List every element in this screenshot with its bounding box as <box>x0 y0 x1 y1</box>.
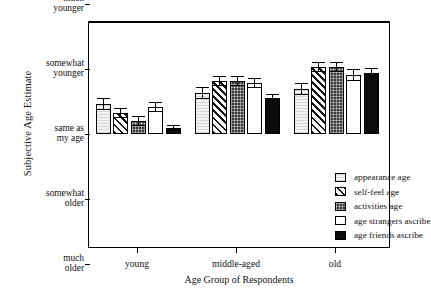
x-axis-tick-mark <box>137 248 138 253</box>
error-bar <box>364 68 379 78</box>
x-axis-title: Age Group of Respondents <box>88 274 390 285</box>
error-bar-cap-top <box>347 69 360 70</box>
legend-label: age friends ascribe <box>354 230 423 240</box>
legend-swatch <box>335 187 346 196</box>
y-axis-tick-label: same as my age <box>0 123 84 144</box>
error-bar-cap-top <box>312 62 325 63</box>
legend-swatch <box>335 216 346 225</box>
error-bar-cap-bottom <box>347 80 360 81</box>
x-axis-tick-mark <box>335 248 336 253</box>
y-axis-tick-mark <box>85 4 90 5</box>
legend-label: age strangers ascribe <box>354 216 431 226</box>
error-bar-cap-bottom <box>365 77 378 78</box>
legend-label: self-feel age <box>354 187 399 197</box>
y-axis-tick-label: much younger <box>0 0 84 13</box>
error-bar-cap-bottom <box>295 94 308 95</box>
legend-swatch <box>335 231 346 240</box>
y-axis-tick-mark <box>85 199 90 200</box>
error-bar <box>294 83 309 95</box>
error-bar-cap-top <box>295 83 308 84</box>
legend-item: appearance age <box>335 170 431 185</box>
legend: appearance ageself-feel ageactivities ag… <box>335 170 431 243</box>
error-bar <box>346 69 361 81</box>
error-bar-cap-top <box>330 62 343 63</box>
error-bar-cap-top <box>365 68 378 69</box>
y-axis-tick-label: somewhat older <box>0 188 84 209</box>
plot-area: appearance ageself-feel ageactivities ag… <box>88 21 390 248</box>
x-axis-tick-label: young <box>92 258 182 269</box>
x-axis-tick-label: middle-aged <box>191 258 281 269</box>
legend-item: age friends ascribe <box>335 228 431 243</box>
legend-label: activities age <box>354 201 402 211</box>
bar <box>364 73 379 134</box>
legend-item: self-feel age <box>335 185 431 200</box>
y-axis-tick-label: much older <box>0 253 84 274</box>
y-axis-tick-mark <box>85 264 90 265</box>
error-bar <box>329 62 344 72</box>
x-axis-tick-label: old <box>290 258 380 269</box>
legend-item: activities age <box>335 199 431 214</box>
bar <box>311 67 326 134</box>
y-axis-tick-mark <box>85 134 90 135</box>
y-axis-tick-mark <box>85 69 90 70</box>
error-bar-cap-bottom <box>312 71 325 72</box>
legend-swatch <box>335 202 346 211</box>
error-bar-cap-bottom <box>330 71 343 72</box>
error-bar <box>311 62 326 72</box>
bar <box>294 89 309 134</box>
legend-swatch <box>335 173 346 182</box>
bar <box>329 67 344 134</box>
legend-label: appearance age <box>354 172 410 182</box>
legend-item: age strangers ascribe <box>335 214 431 229</box>
x-axis-tick-mark <box>236 248 237 253</box>
bar <box>346 75 361 134</box>
y-axis-tick-label: somewhat younger <box>0 58 84 79</box>
